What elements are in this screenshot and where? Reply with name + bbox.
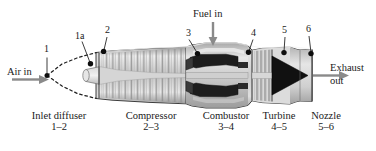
compressor-front-hub [83,67,99,84]
station-label-4: 4 [251,28,256,39]
exhaust-out-label-line2: out [330,75,343,86]
station-dot-4 [246,50,251,55]
station-dot-2 [101,49,106,54]
section-caption-nozzle: Nozzle 5–6 [297,110,355,132]
compressor-blade-rows [99,48,186,103]
figure-root: Air in Fuel in Exhaust out 1 1a 2 3 4 5 … [0,0,376,151]
section-range-inlet-diffuser: 1–2 [9,121,109,132]
section-caption-inlet-diffuser: Inlet diffuser 1–2 [9,110,109,132]
exhaust-out-label-line1: Exhaust [330,62,364,73]
station-dot-1a [88,61,93,66]
station-label-1: 1 [44,44,49,55]
engine-shaft [186,73,248,79]
station-label-6: 6 [306,24,311,35]
station-label-5: 5 [282,25,287,36]
section-name-nozzle: Nozzle [297,110,355,121]
station-dot-5 [281,50,286,55]
air-in-label: Air in [7,66,32,77]
station-label-1a: 1a [75,31,84,42]
station-dot-1 [45,73,50,78]
station-dot-6 [308,51,313,56]
station-label-3: 3 [186,28,191,39]
fuel-in-label: Fuel in [193,8,222,19]
station-label-2: 2 [105,25,110,36]
section-name-inlet-diffuser: Inlet diffuser [9,110,109,121]
section-range-nozzle: 5–6 [297,121,355,132]
station-dot-3 [195,51,200,56]
